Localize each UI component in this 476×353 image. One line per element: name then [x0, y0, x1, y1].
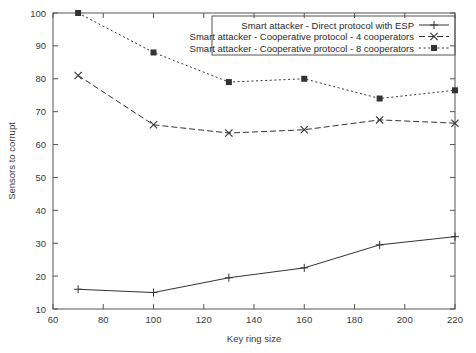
x-tick-label: 220	[447, 314, 463, 325]
x-tick-label: 160	[296, 314, 312, 325]
legend-label: Smart attacker - Direct protocol with ES…	[241, 20, 414, 31]
data-point	[225, 274, 233, 282]
series-0	[74, 233, 459, 297]
x-tick-label: 200	[397, 314, 413, 325]
data-point	[75, 72, 82, 79]
y-tick-label: 40	[35, 205, 46, 216]
y-tick-label: 100	[30, 8, 46, 19]
y-tick-label: 50	[35, 172, 46, 183]
y-tick-label: 70	[35, 106, 46, 117]
legend-marker	[431, 45, 437, 51]
marker-square	[452, 87, 458, 93]
legend-label: Smart attacker - Cooperative protocol - …	[190, 43, 415, 54]
legend-marker	[430, 21, 438, 29]
x-tick-label: 140	[246, 314, 262, 325]
x-tick-label: 60	[48, 314, 59, 325]
line-chart: 6080100120140160180200220102030405060708…	[0, 0, 476, 353]
data-point	[75, 10, 81, 16]
y-tick-label: 10	[35, 304, 46, 315]
x-tick-label: 180	[347, 314, 363, 325]
y-axis-title: Sensors to corrupt	[6, 122, 17, 200]
legend-item[interactable]: Smart attacker - Cooperative protocol - …	[190, 31, 449, 42]
data-point	[301, 76, 307, 82]
y-tick-label: 20	[35, 271, 46, 282]
legend-item[interactable]: Smart attacker - Direct protocol with ES…	[241, 20, 449, 31]
y-tick-label: 90	[35, 40, 46, 51]
series-1	[75, 72, 459, 137]
series-line	[78, 237, 455, 293]
x-axis-title: Key ring size	[227, 333, 281, 344]
marker-square	[301, 76, 307, 82]
data-point	[226, 79, 232, 85]
chart-container: 6080100120140160180200220102030405060708…	[0, 0, 476, 353]
x-tick-label: 120	[196, 314, 212, 325]
y-tick-label: 60	[35, 139, 46, 150]
plot-frame	[53, 13, 455, 309]
series-line	[78, 75, 455, 133]
marker-square	[431, 45, 437, 51]
data-point	[151, 49, 157, 55]
y-tick-label: 30	[35, 238, 46, 249]
marker-square	[75, 10, 81, 16]
marker-square	[226, 79, 232, 85]
data-point	[300, 264, 308, 272]
legend-item[interactable]: Smart attacker - Cooperative protocol - …	[190, 43, 449, 54]
data-point	[150, 289, 158, 297]
legend-label: Smart attacker - Cooperative protocol - …	[190, 31, 415, 42]
data-point	[74, 285, 82, 293]
marker-square	[151, 49, 157, 55]
marker-square	[377, 96, 383, 102]
data-point	[452, 87, 458, 93]
data-point	[376, 241, 384, 249]
data-point	[377, 96, 383, 102]
data-point	[451, 233, 459, 241]
x-tick-label: 100	[146, 314, 162, 325]
x-tick-label: 80	[98, 314, 109, 325]
y-tick-label: 80	[35, 73, 46, 84]
